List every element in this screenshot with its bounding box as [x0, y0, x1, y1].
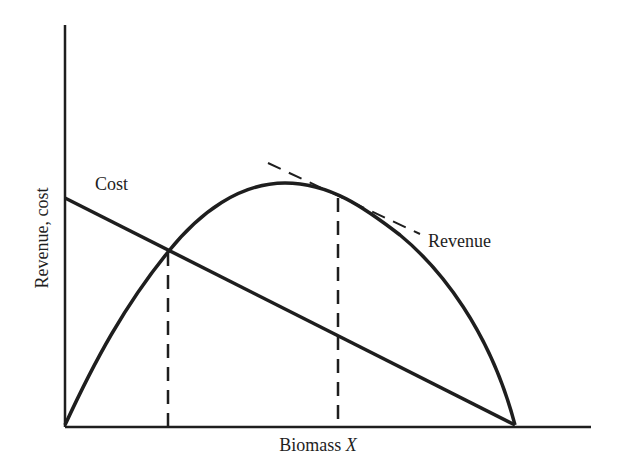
- revenue-label: Revenue: [428, 231, 491, 251]
- revenue-cost-diagram: Cost Revenue Revenue, cost Biomass X: [0, 0, 619, 474]
- x-axis-label: Biomass X: [279, 435, 358, 455]
- cost-label: Cost: [95, 174, 128, 194]
- revenue-curve: [65, 183, 515, 425]
- y-axis-label: Revenue, cost: [32, 188, 52, 289]
- x-axis-label-main: Biomass: [279, 435, 346, 455]
- x-axis-label-var: X: [345, 435, 358, 455]
